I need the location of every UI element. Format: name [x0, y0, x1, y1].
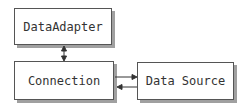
arrow-connection-to-source-icon [115, 75, 137, 80]
arrow-adapter-connection-icon [62, 46, 67, 61]
edges-layer [0, 0, 248, 111]
arrow-source-to-connection-icon [117, 85, 137, 90]
